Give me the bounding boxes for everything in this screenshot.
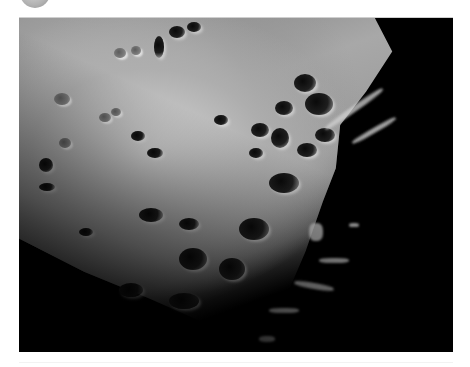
divider <box>19 362 453 363</box>
crater <box>147 148 163 158</box>
lit-ridge <box>269 308 299 313</box>
crater <box>251 123 269 137</box>
lit-ridge <box>351 116 397 145</box>
lit-ridge <box>259 336 275 342</box>
crater <box>79 228 93 236</box>
lit-ridge <box>349 223 359 227</box>
crater <box>169 293 199 309</box>
crater <box>179 248 207 270</box>
crater <box>119 283 143 297</box>
lit-ridge <box>294 280 334 293</box>
lit-lunar-surface <box>19 18 453 352</box>
crater <box>271 128 289 148</box>
crater <box>169 26 185 38</box>
crater <box>114 48 126 58</box>
lit-ridge <box>319 258 349 263</box>
crater <box>187 22 201 32</box>
crater <box>111 108 121 116</box>
crater <box>139 208 163 222</box>
crater <box>219 258 245 280</box>
lit-ridge <box>309 223 323 241</box>
crater <box>154 36 164 58</box>
crater <box>214 115 228 125</box>
crater <box>315 128 335 142</box>
crater <box>39 158 53 172</box>
crater <box>305 93 333 115</box>
crater <box>269 173 299 193</box>
crater <box>294 74 316 92</box>
crater <box>179 218 199 230</box>
crater <box>54 93 70 105</box>
circle-button-icon <box>20 0 50 8</box>
moon-photo <box>19 17 453 352</box>
crater <box>39 183 55 191</box>
page <box>0 0 470 367</box>
crater <box>297 143 317 157</box>
crater <box>59 138 71 148</box>
crater <box>131 46 141 55</box>
crater <box>99 113 111 122</box>
crater <box>239 218 269 240</box>
crater <box>131 131 145 141</box>
crater <box>275 101 293 115</box>
crater <box>249 148 263 158</box>
